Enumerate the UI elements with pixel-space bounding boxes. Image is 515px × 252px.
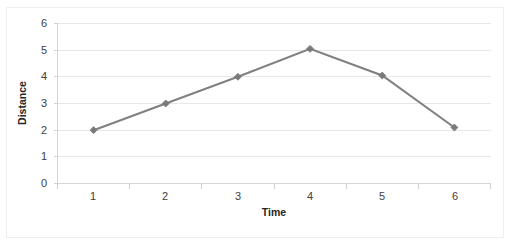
series-marker-point-2 — [162, 100, 169, 107]
series-line-distance — [94, 49, 455, 130]
x-axis-title: Time — [262, 206, 286, 218]
x-tick-label-1: 1 — [90, 190, 96, 202]
y-tick-label-6: 6 — [41, 17, 47, 29]
gridlines-group — [58, 24, 491, 157]
x-tick-label-3: 3 — [235, 190, 241, 202]
x-tick-label-5: 5 — [379, 190, 385, 202]
series-marker-point-1 — [90, 127, 97, 134]
series-marker-point-4 — [307, 45, 314, 52]
y-tick-labels-group: 6 5 4 3 2 1 0 — [41, 17, 47, 189]
chart-container: 6 5 4 3 2 1 0 1 2 3 4 5 6 Distance Time — [0, 0, 515, 252]
x-tick-labels-group: 1 2 3 4 5 6 — [90, 190, 458, 202]
x-tick-marks-group — [58, 184, 491, 189]
y-tick-marks-group — [54, 24, 58, 184]
y-tick-label-0: 0 — [41, 177, 47, 189]
x-tick-label-2: 2 — [162, 190, 168, 202]
y-tick-label-3: 3 — [41, 97, 47, 109]
series-marker-point-3 — [235, 73, 242, 80]
y-tick-label-2: 2 — [41, 124, 47, 136]
y-tick-label-1: 1 — [41, 150, 47, 162]
x-tick-label-6: 6 — [452, 190, 458, 202]
y-tick-label-5: 5 — [41, 44, 47, 56]
y-axis-title: Distance — [16, 81, 28, 125]
line-chart-plot: 6 5 4 3 2 1 0 1 2 3 4 5 6 Distance Time — [0, 0, 515, 252]
x-tick-label-4: 4 — [307, 190, 313, 202]
y-tick-label-4: 4 — [41, 70, 47, 82]
